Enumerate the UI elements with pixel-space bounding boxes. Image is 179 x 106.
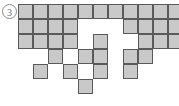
grid-cell (138, 19, 153, 34)
grid-cell (78, 79, 93, 94)
figure-number-badge: 3 (2, 4, 17, 19)
grid-cell (78, 4, 93, 19)
grid-cell (18, 34, 33, 49)
grid-cell (138, 34, 153, 49)
grid-cell (48, 4, 63, 19)
grid-cell (153, 19, 168, 34)
grid-cell (108, 4, 123, 19)
grid-cell (93, 64, 108, 79)
grid-cell (168, 19, 179, 34)
grid-cell (138, 4, 153, 19)
grid-cell (78, 49, 93, 64)
polyomino-figure: 3 (0, 0, 179, 106)
grid-cell (168, 34, 179, 49)
grid-cell (33, 19, 48, 34)
grid-cell (63, 4, 78, 19)
grid-cell (18, 4, 33, 19)
polyomino-grid (18, 4, 179, 94)
grid-cell (33, 64, 48, 79)
grid-cell (168, 4, 179, 19)
grid-cell (123, 64, 138, 79)
grid-cell (93, 4, 108, 19)
grid-cell (48, 49, 63, 64)
grid-cell (33, 4, 48, 19)
grid-cell (63, 64, 78, 79)
grid-cell (123, 19, 138, 34)
grid-cell (153, 34, 168, 49)
grid-cell (123, 49, 138, 64)
grid-cell (138, 49, 153, 64)
grid-cell (18, 19, 33, 34)
grid-cell (63, 34, 78, 49)
grid-cell (123, 4, 138, 19)
grid-cell (63, 19, 78, 34)
grid-cell (93, 34, 108, 49)
grid-cell (93, 49, 108, 64)
grid-cell (48, 34, 63, 49)
grid-cell (153, 4, 168, 19)
grid-cell (33, 34, 48, 49)
grid-cell (48, 19, 63, 34)
